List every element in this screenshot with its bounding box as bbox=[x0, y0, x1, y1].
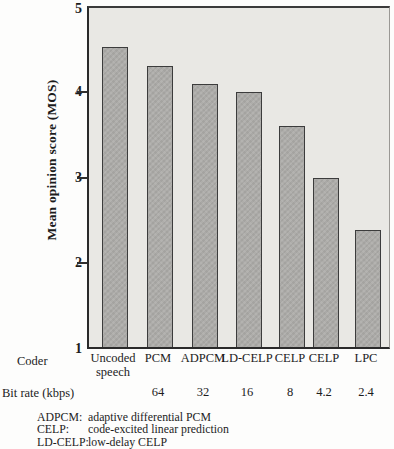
footnote-definition: low-delay CELP bbox=[88, 435, 167, 449]
footnote-term: CELP: bbox=[37, 423, 88, 435]
footnote-term: ADPCM: bbox=[37, 411, 88, 423]
bar-lpc bbox=[355, 230, 381, 347]
y-axis-title: Mean opinion score (MOS) bbox=[44, 80, 60, 241]
bar-celp bbox=[313, 178, 339, 347]
y-tick-label-5: 5 bbox=[58, 2, 82, 16]
category-label-lpc: LPC bbox=[332, 352, 394, 366]
footnote-line-celp: CELP:code-excited linear prediction bbox=[37, 423, 229, 435]
bar-celp bbox=[279, 126, 305, 347]
bar-ld-celp bbox=[236, 92, 262, 347]
footnote-line-adpcm: ADPCM:adaptive differential PCM bbox=[37, 411, 211, 423]
coder-row-label: Coder bbox=[17, 355, 48, 368]
footnote-line-ldcelp: LD-CELP:low-delay CELP bbox=[37, 436, 167, 448]
bitrate-row-label: Bit rate (kbps) bbox=[2, 387, 74, 400]
y-tick-mark-2 bbox=[77, 262, 87, 264]
y-tick-mark-4 bbox=[77, 91, 87, 93]
footnote-term: LD-CELP: bbox=[37, 436, 88, 448]
plot-area bbox=[87, 6, 390, 349]
bar-pcm bbox=[147, 66, 173, 347]
y-tick-mark-3 bbox=[77, 177, 87, 179]
bar-uncoded-speech bbox=[102, 47, 128, 347]
bitrate-value-2.4: 2.4 bbox=[332, 386, 394, 399]
bar-adpcm bbox=[192, 84, 218, 347]
